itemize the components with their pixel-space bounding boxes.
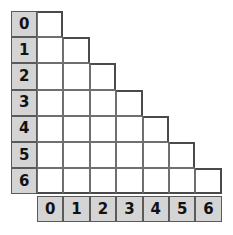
grid-cell-r2-c1 [63, 63, 89, 89]
row-header-2: 2 [11, 63, 37, 89]
column-header-label: 2 [98, 201, 108, 216]
row-header-label: 4 [19, 121, 29, 136]
column-header-label: 6 [203, 201, 213, 216]
grid-cell-r6-c6 [195, 168, 221, 194]
row-header-5: 5 [11, 142, 37, 168]
grid-cell-r5-c4 [143, 142, 169, 168]
row-header-label: 0 [19, 16, 29, 31]
grid-cell-r3-c2 [90, 90, 116, 116]
grid-cell-r0-c0 [37, 11, 63, 37]
column-header-4: 4 [143, 196, 169, 222]
grid-cell-r3-c3 [116, 90, 142, 116]
row-header-label: 2 [19, 68, 29, 83]
grid-cell-r3-c0 [37, 90, 63, 116]
column-header-label: 0 [45, 201, 55, 216]
row-header-label: 6 [19, 173, 29, 188]
grid-cell-r1-c1 [63, 37, 89, 63]
column-header-3: 3 [116, 196, 142, 222]
triangular-grid-figure: 01234560123456 [0, 0, 233, 235]
grid-cell-r4-c0 [37, 116, 63, 142]
grid-cell-r6-c4 [143, 168, 169, 194]
grid-cell-r5-c5 [169, 142, 195, 168]
grid-cell-r6-c1 [63, 168, 89, 194]
column-header-5: 5 [169, 196, 195, 222]
column-header-label: 4 [151, 201, 161, 216]
grid-cell-r6-c2 [90, 168, 116, 194]
grid-cell-r5-c0 [37, 142, 63, 168]
grid-cell-r5-c3 [116, 142, 142, 168]
row-header-4: 4 [11, 116, 37, 142]
grid-cell-r2-c0 [37, 63, 63, 89]
row-header-3: 3 [11, 90, 37, 116]
grid-cell-r6-c3 [116, 168, 142, 194]
column-header-label: 5 [177, 201, 187, 216]
column-header-6: 6 [195, 196, 221, 222]
grid-cell-r5-c2 [90, 142, 116, 168]
column-header-label: 1 [71, 201, 81, 216]
row-header-label: 1 [19, 42, 29, 57]
column-header-label: 3 [124, 201, 134, 216]
column-header-2: 2 [90, 196, 116, 222]
column-header-1: 1 [63, 196, 89, 222]
grid-cell-r6-c5 [169, 168, 195, 194]
row-header-label: 3 [19, 95, 29, 110]
row-header-label: 5 [19, 147, 29, 162]
grid-cell-r4-c1 [63, 116, 89, 142]
row-header-0: 0 [11, 11, 37, 37]
grid-cell-r5-c1 [63, 142, 89, 168]
grid-cell-r6-c0 [37, 168, 63, 194]
grid-cell-r4-c2 [90, 116, 116, 142]
grid-cell-r1-c0 [37, 37, 63, 63]
grid-cell-r4-c3 [116, 116, 142, 142]
grid-cell-r2-c2 [90, 63, 116, 89]
grid-cell-r3-c1 [63, 90, 89, 116]
column-header-0: 0 [37, 196, 63, 222]
row-header-6: 6 [11, 168, 37, 194]
row-header-1: 1 [11, 37, 37, 63]
grid-cell-r4-c4 [143, 116, 169, 142]
